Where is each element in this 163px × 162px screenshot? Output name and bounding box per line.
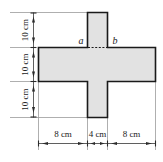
cross-figure-diagram: 10 cm 10 cm 10 cm 8 cm 4 cm 8 cm a b (0, 0, 163, 162)
horizontal-dimension-label-right: 8 cm (123, 129, 141, 139)
point-label-a: a (79, 35, 84, 46)
horizontal-dimension-label-left: 8 cm (54, 129, 72, 139)
vertical-dimension-label-middle: 10 cm (20, 53, 30, 75)
horizontal-dimension-label-center: 4 cm (89, 129, 107, 139)
vertical-dimension-label-bottom: 10 cm (20, 88, 30, 110)
cross-shape (39, 13, 156, 118)
vertical-dimension-label-top: 10 cm (20, 19, 30, 41)
point-label-b: b (113, 35, 118, 46)
